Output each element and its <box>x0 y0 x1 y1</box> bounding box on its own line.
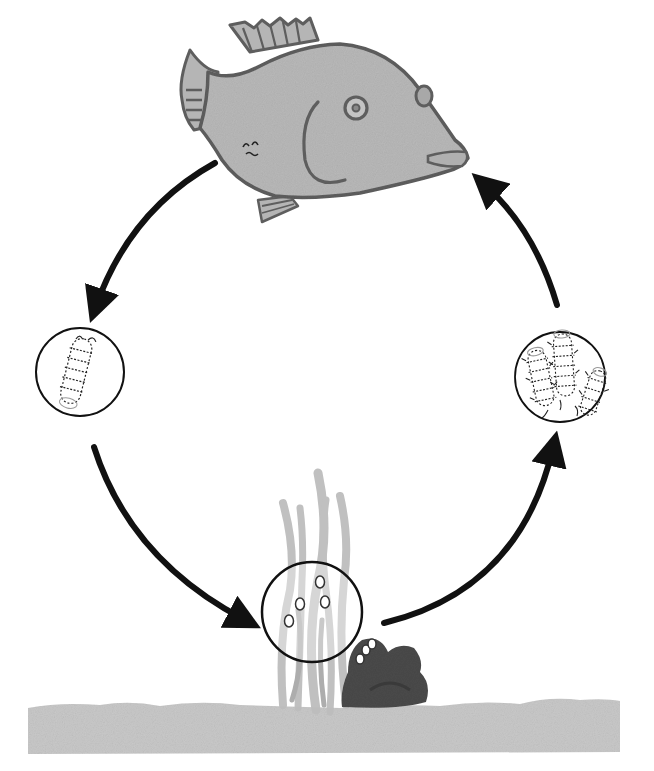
arrow-eggs-to-juveniles <box>384 448 553 623</box>
arrow-larva-to-eggs <box>94 447 245 620</box>
dorsal-fin <box>230 18 318 52</box>
stage-juveniles <box>515 329 614 422</box>
fish-body <box>200 44 468 197</box>
stage-adult-fish <box>181 18 468 222</box>
arrow-juveniles-to-adult <box>485 185 557 305</box>
arrow-adult-to-larva <box>96 163 215 306</box>
stage-larva <box>36 328 124 416</box>
life-cycle-diagram: Adult fish Larva Eggs on seaweed Juvenil… <box>0 0 654 771</box>
rock <box>342 639 428 708</box>
